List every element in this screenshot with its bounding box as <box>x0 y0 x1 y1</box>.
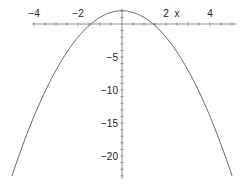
x-tick-label: 4 <box>207 8 213 19</box>
tick-labels: −4−224x−5−10−15−20 <box>28 8 213 162</box>
plot-canvas: −4−224x−5−10−15−20 <box>0 0 249 188</box>
x-tick-label: −4 <box>28 8 40 19</box>
x-tick-label: 2 <box>163 8 169 19</box>
x-axis-label: x <box>175 8 180 19</box>
axes <box>32 9 237 179</box>
y-tick-label: −20 <box>101 151 118 162</box>
y-tick-label: −15 <box>101 118 118 129</box>
x-tick-label: −2 <box>72 8 84 19</box>
y-tick-label: −5 <box>107 52 119 63</box>
y-tick-label: −10 <box>101 85 118 96</box>
